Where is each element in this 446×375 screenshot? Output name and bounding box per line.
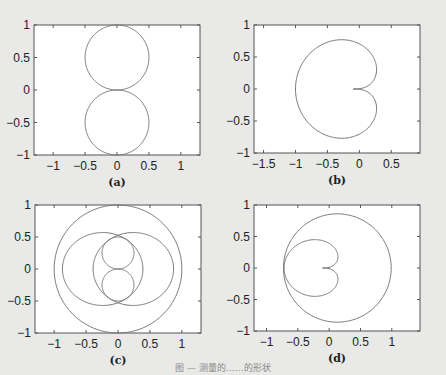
y-tick-label: −1 xyxy=(236,146,250,160)
y-tick-label: 1 xyxy=(24,198,31,212)
y-tick-label: 0 xyxy=(23,83,30,97)
y-tick-label: −0.5 xyxy=(226,293,250,307)
subplot-d: −1−0.500.5110.50−0.5−1(d) xyxy=(226,198,420,365)
x-tick-label: 0.5 xyxy=(142,337,159,351)
y-tick-label: 1 xyxy=(243,18,250,32)
subplot-a: −1−0.500.5110.50−0.5−1(a) xyxy=(6,18,200,189)
x-tick-label: −0.5 xyxy=(316,157,340,171)
y-tick-label: 0 xyxy=(243,82,250,96)
y-tick-label: 0 xyxy=(243,261,250,275)
x-tick-label: −1 xyxy=(47,337,61,351)
y-tick-label: −1 xyxy=(17,326,31,340)
y-tick-label: 0.5 xyxy=(233,50,250,64)
x-tick-label: 0 xyxy=(326,335,333,349)
x-tick-label: 0.5 xyxy=(383,157,400,171)
subplot-c: −1−0.500.5110.50−0.5−1(c) xyxy=(7,198,201,367)
x-tick-label: 0 xyxy=(115,337,122,351)
panel-label: (b) xyxy=(328,174,346,187)
x-tick-label: −0.5 xyxy=(74,337,98,351)
panel-label: (a) xyxy=(108,176,126,189)
y-tick-label: −0.5 xyxy=(6,116,30,130)
y-tick-label: 1 xyxy=(23,18,30,32)
x-tick-label: 1 xyxy=(178,159,185,173)
y-tick-label: −0.5 xyxy=(7,294,31,308)
x-tick-label: 0.5 xyxy=(352,335,369,349)
figure-caption: 图 — 测量的……的形状 xyxy=(175,362,271,373)
x-tick-label: 0 xyxy=(114,159,121,173)
x-tick-label: −0.5 xyxy=(286,335,310,349)
y-tick-label: 0 xyxy=(24,262,31,276)
x-tick-label: −1 xyxy=(46,159,60,173)
x-tick-label: −0.5 xyxy=(73,159,97,173)
y-tick-label: 0.5 xyxy=(233,230,250,244)
panel-label: (d) xyxy=(328,352,346,365)
y-tick-label: −1 xyxy=(236,324,250,338)
x-tick-label: 0.5 xyxy=(141,159,158,173)
subplot-b: −1.5−1−0.500.510.50−0.5−1(b) xyxy=(226,18,420,187)
y-tick-label: 0.5 xyxy=(14,230,31,244)
y-tick-label: 1 xyxy=(243,198,250,212)
x-tick-label: 0 xyxy=(356,157,363,171)
panel-label: (c) xyxy=(109,354,126,367)
y-tick-label: −1 xyxy=(16,148,30,162)
x-tick-label: 1 xyxy=(388,335,395,349)
x-tick-label: −1 xyxy=(260,335,274,349)
x-tick-label: −1 xyxy=(289,157,303,171)
axes-box xyxy=(254,205,420,331)
x-tick-label: −1.5 xyxy=(252,157,276,171)
axes-box xyxy=(254,25,420,153)
figure-canvas: −1−0.500.5110.50−0.5−1(a)−1.5−1−0.500.51… xyxy=(0,0,446,375)
y-tick-label: −0.5 xyxy=(226,114,250,128)
x-tick-label: 1 xyxy=(179,337,186,351)
y-tick-label: 0.5 xyxy=(13,51,30,65)
